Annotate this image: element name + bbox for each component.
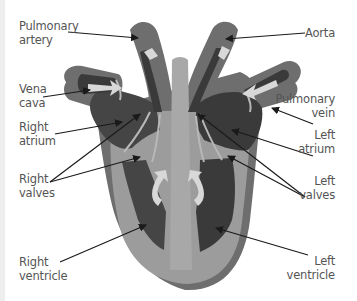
label-pulmonary-vein: Pulmonary vein: [275, 92, 335, 120]
label-vena-cava: Vena cava: [19, 82, 47, 110]
pointer-aorta: [226, 33, 305, 39]
label-left-valves: Left valves: [299, 174, 335, 202]
heart-body: [64, 22, 301, 290]
label-aorta: Aorta: [305, 26, 335, 40]
label-right-valves: Right valves: [19, 172, 55, 200]
label-right-atrium: Right atrium: [19, 120, 56, 148]
label-left-atrium: Left atrium: [298, 128, 335, 156]
label-right-ventricle: Right ventricle: [19, 255, 67, 283]
heart-diagram: Pulmonary artery Aorta Vena cava Pulmona…: [0, 0, 357, 301]
label-left-ventricle: Left ventricle: [287, 254, 335, 282]
label-pulmonary-artery: Pulmonary artery: [19, 19, 79, 47]
